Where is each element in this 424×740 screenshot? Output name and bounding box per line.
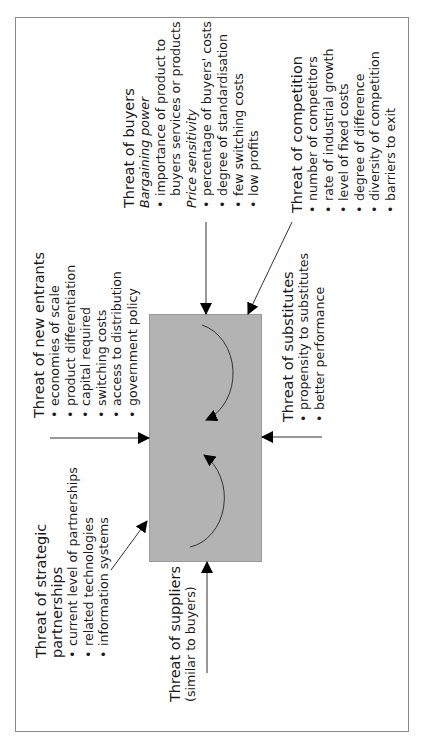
substitutes-title: Threat of substitutes	[280, 253, 296, 422]
strategic-partnerships-title-line2: partnerships	[49, 467, 65, 658]
substitutes-item: propensity to substitutes	[296, 253, 312, 422]
new-entrants-item: switching costs	[94, 252, 110, 418]
new-entrants-item: economies of scale	[47, 252, 63, 418]
substitutes-item: better performance	[312, 253, 328, 422]
new-entrants-item: government policy	[125, 252, 141, 418]
new-entrants-item: access to distribution	[109, 252, 125, 418]
competition-item: barriers to exit	[383, 49, 399, 213]
competition-item: level of fixed costs	[336, 49, 352, 213]
buyers-group-heading: Price sensitivity	[184, 21, 200, 208]
strategic-partnerships-item: information systems	[96, 467, 112, 658]
new-entrants-item: product differentiation	[63, 252, 79, 418]
strategic-partnerships-item: current level of partnerships	[65, 467, 81, 658]
buyers-item: degree of standardisation	[215, 21, 231, 208]
rivalry-cycle-arrow-top	[202, 325, 233, 420]
buyers-item-continuation: buyers services or products	[168, 21, 184, 208]
competition-item: rate of industrial growth	[321, 49, 337, 213]
competition-item: diversity of competition	[367, 49, 383, 213]
buyers-group-heading: Bargaining power	[137, 21, 153, 208]
buyers-item: few switching costs	[231, 21, 247, 208]
rivalry-cycle-arrow-bottom	[190, 455, 224, 547]
suppliers-block: Threat of suppliers (similar to buyers)	[167, 566, 199, 702]
buyers-block: Threat of buyers Bargaining power import…	[121, 21, 262, 208]
buyers-item: low profits	[246, 21, 262, 208]
strategic-partnerships-block: Threat of strategic partnerships current…	[33, 467, 112, 658]
buyers-item: percentage of buyers' costs	[199, 21, 215, 208]
new-entrants-title: Threat of new entrants	[31, 252, 47, 418]
suppliers-subtitle: (similar to buyers)	[183, 566, 199, 702]
strategic-partnerships-title: Threat of strategic	[33, 467, 49, 658]
new-entrants-item: capital required	[78, 252, 94, 418]
buyers-title: Threat of buyers	[121, 21, 137, 208]
competition-item: number of competitors	[305, 49, 321, 213]
competition-title: Threat of competition	[289, 49, 305, 213]
competition-block: Threat of competition number of competit…	[289, 49, 399, 213]
new-entrants-block: Threat of new entrants economies of scal…	[31, 252, 141, 418]
strategic-partnerships-item: related technologies	[81, 467, 97, 658]
competition-item: degree of difference	[352, 49, 368, 213]
strategic-partnerships-arrow	[111, 521, 147, 570]
suppliers-title: Threat of suppliers	[167, 566, 183, 702]
buyers-item: importance of product to	[153, 21, 169, 208]
substitutes-block: Threat of substitutes propensity to subs…	[280, 253, 327, 422]
